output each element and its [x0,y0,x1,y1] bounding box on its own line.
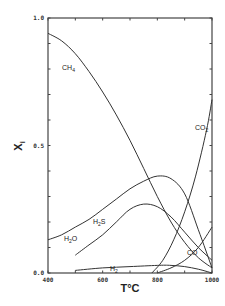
label-co2: CO2 [195,124,209,133]
y-tick-label: 1.0 [33,14,44,21]
y-axis-title: Xi [12,141,26,150]
y-axis-tick-labels: 0.00.51.0 [33,14,44,276]
curve-h2 [75,265,212,273]
chart: 0.00.51.0 4006008001000 CH4H2OH2SH2CO2CO… [0,0,225,306]
y-axis-title-sub: i [19,141,26,143]
svg-text:Xi: Xi [12,141,26,150]
curve-labels: CH4H2OH2SH2CO2CO [62,64,209,274]
y-tick-label: 0.5 [33,142,44,149]
y-tick-label: 0.0 [33,269,44,276]
x-tick-label: 400 [43,276,54,283]
x-tick-label: 600 [97,276,108,283]
label-h2o: H2O [64,235,78,244]
x-axis-title: T°C [120,282,139,294]
label-ch4: CH4 [62,64,75,73]
label-h2s: H2S [93,218,106,227]
x-tick-label: 800 [152,276,163,283]
x-tick-label: 1000 [205,276,220,283]
label-co: CO [187,249,198,256]
